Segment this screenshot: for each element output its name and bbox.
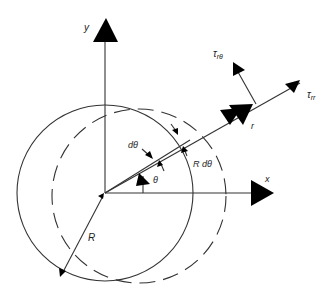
radius-line [63,196,103,272]
radius-label: R [88,232,95,243]
arc-arrowhead-icon-1 [172,128,178,135]
theta-label: θ [153,175,158,185]
radial-line-r [105,83,300,193]
x-axis-label: x [264,174,270,184]
y-axis-arrowhead-icon [93,18,118,42]
y-axis-label: y [83,22,90,33]
tau-rr-arrowhead-icon [285,80,300,93]
dashed-circle [52,109,226,283]
tau-r-theta-label: τrθ [213,48,223,60]
radius-origin-arrowhead-icon [98,193,104,199]
radial-line-dtheta [105,140,190,193]
polar-stress-diagram: y x r τrr τrθ θ dθ R dθ R [0,0,331,297]
dtheta-label: dθ [128,140,138,150]
tau-r-theta-shaft [238,72,256,104]
tau-rr-label: τrr [307,89,316,101]
x-axis-arrowhead-icon [251,180,274,206]
r-label: r [251,121,255,131]
arc-length-label: R dθ [193,159,212,169]
